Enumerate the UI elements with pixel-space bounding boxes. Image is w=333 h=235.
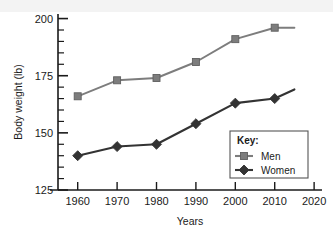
legend-title: Key: xyxy=(237,135,259,146)
x-axis-tick-label: 1960 xyxy=(65,195,89,207)
data-point-women-2010 xyxy=(270,94,280,104)
x-axis-tick-label: 2010 xyxy=(262,195,286,207)
series-line-men xyxy=(78,28,295,97)
y-axis-major-ticks xyxy=(58,19,68,190)
data-point-men-1980 xyxy=(153,75,160,82)
data-point-women-1970 xyxy=(112,142,122,152)
x-axis-tick-label: 2000 xyxy=(223,195,247,207)
square-marker xyxy=(241,153,248,160)
series-men xyxy=(74,24,294,100)
data-point-women-1960 xyxy=(73,151,83,161)
legend-label-men: Men xyxy=(261,151,280,162)
cropped-header-band xyxy=(0,0,333,12)
x-axis-tick-label: 2020 xyxy=(302,195,326,207)
y-axis-tick-label: 150 xyxy=(35,127,53,139)
x-axis-tick-labels: 1960197019801990200020102020 xyxy=(65,195,326,207)
x-axis-title: Years xyxy=(177,215,203,227)
data-point-women-1990 xyxy=(191,119,201,129)
x-axis-tick-label: 1970 xyxy=(105,195,129,207)
legend: Key: MenWomen xyxy=(230,131,308,178)
data-point-women-1980 xyxy=(152,139,162,149)
data-point-men-1990 xyxy=(192,59,199,66)
data-point-men-2010 xyxy=(271,24,278,31)
x-axis-major-ticks xyxy=(78,182,314,190)
y-axis-title: Body weight (lb) xyxy=(12,64,24,139)
y-axis-tick-label: 125 xyxy=(35,184,53,196)
y-axis-tick-labels: 125150175200 xyxy=(35,13,53,196)
y-axis-minor-ticks xyxy=(58,30,64,179)
data-point-men-2000 xyxy=(232,36,239,43)
legend-label-women: Women xyxy=(261,165,295,176)
data-point-women-2000 xyxy=(230,98,240,108)
data-point-men-1960 xyxy=(74,93,81,100)
data-point-men-1970 xyxy=(114,77,121,84)
x-axis-tick-label: 1980 xyxy=(144,195,168,207)
y-axis-tick-label: 175 xyxy=(35,70,53,82)
y-axis-tick-label: 200 xyxy=(35,13,53,25)
chart-canvas: 125150175200 196019701980199020002010202… xyxy=(0,0,333,235)
x-axis-tick-label: 1990 xyxy=(184,195,208,207)
line-chart: 125150175200 196019701980199020002010202… xyxy=(0,0,333,235)
